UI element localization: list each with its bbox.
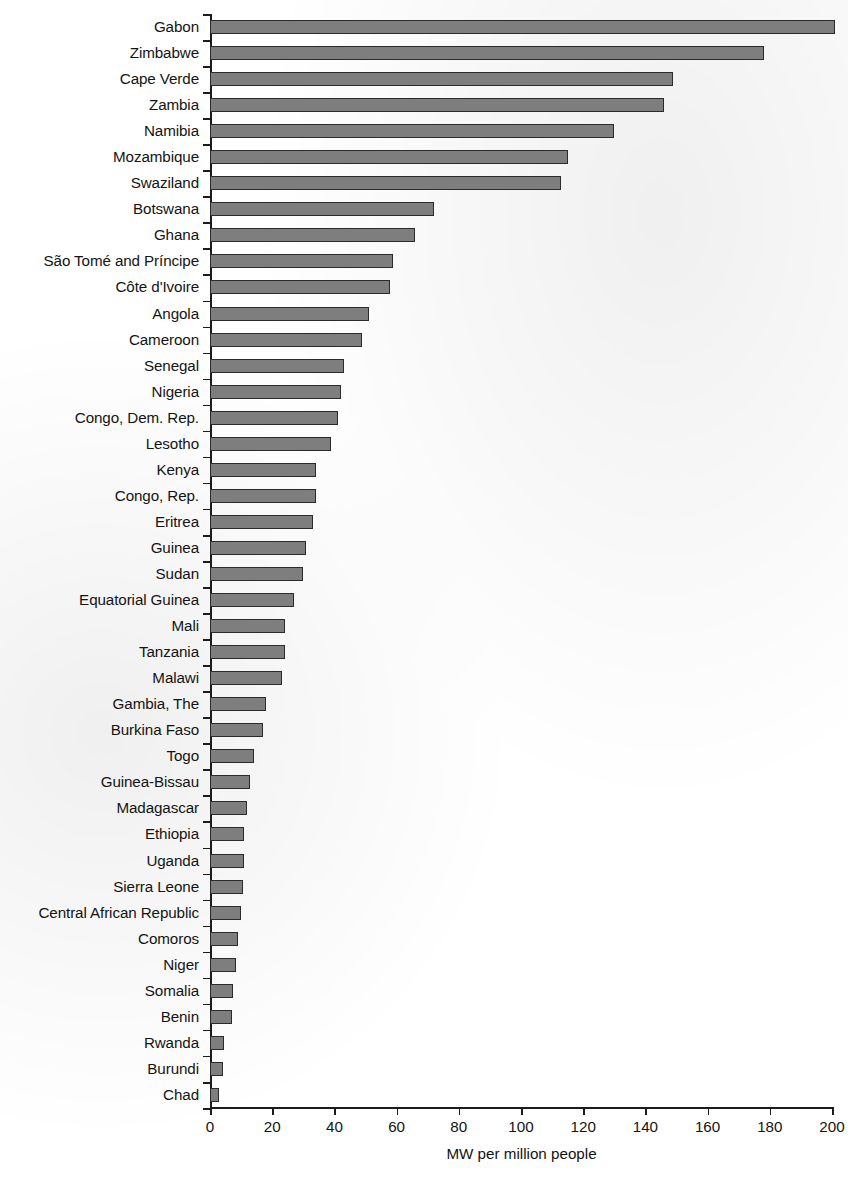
bar-row: Congo, Dem. Rep. [210, 405, 832, 431]
category-label: Mozambique [113, 144, 199, 170]
bar [210, 567, 303, 581]
bar-row: Madagascar [210, 795, 832, 821]
bar-row: Togo [210, 743, 832, 769]
bar [210, 385, 341, 399]
y-axis-tick [203, 457, 210, 459]
category-label: Togo [166, 743, 199, 769]
category-label: Somalia [145, 978, 199, 1004]
category-label: Sierra Leone [113, 874, 199, 900]
bar [210, 515, 313, 529]
y-axis-tick [203, 535, 210, 537]
y-axis-tick [203, 795, 210, 797]
bar-row: Zambia [210, 92, 832, 118]
bar [210, 1062, 223, 1076]
category-label: Nigeria [152, 379, 199, 405]
category-label: Zambia [149, 92, 199, 118]
y-axis-tick [203, 717, 210, 719]
bar-row: Tanzania [210, 639, 832, 665]
x-axis-tick-label: 40 [326, 1118, 343, 1135]
category-label: Guinea [151, 535, 199, 561]
y-axis-tick [203, 248, 210, 250]
category-label: Eritrea [155, 509, 199, 535]
y-axis-tick [203, 222, 210, 224]
bar [210, 124, 614, 138]
category-label: Ghana [154, 222, 199, 248]
bar-row: Eritrea [210, 509, 832, 535]
bar [210, 202, 434, 216]
x-axis-tick-label: 160 [695, 1118, 720, 1135]
category-label: Botswana [133, 196, 199, 222]
y-axis-tick [203, 691, 210, 693]
x-axis-tick-label: 60 [388, 1118, 405, 1135]
x-axis-title: MW per million people [210, 1145, 833, 1162]
bar [210, 723, 263, 737]
bar [210, 280, 390, 294]
category-label: Gabon [154, 14, 199, 40]
bar-row: Central African Republic [210, 900, 832, 926]
y-axis-tick [203, 483, 210, 485]
y-axis-tick [203, 561, 210, 563]
bar [210, 880, 243, 894]
bar-row: Burkina Faso [210, 717, 832, 743]
category-label: Côte d'Ivoire [116, 274, 200, 300]
x-axis-tick [397, 1107, 399, 1115]
bar-row: Botswana [210, 196, 832, 222]
bar-chart-figure: GabonZimbabweCape VerdeZambiaNamibiaMoza… [0, 0, 848, 1183]
bar-row: Equatorial Guinea [210, 587, 832, 613]
y-axis-tick [203, 14, 210, 16]
category-label: Cameroon [129, 327, 199, 353]
bar [210, 906, 241, 920]
x-axis-tick [645, 1107, 647, 1115]
bar [210, 46, 764, 60]
bar-row: Namibia [210, 118, 832, 144]
bar [210, 671, 282, 685]
category-label: Uganda [146, 848, 199, 874]
y-axis-tick [203, 587, 210, 589]
bar [210, 228, 415, 242]
category-label: Mali [172, 613, 199, 639]
x-axis-tick-label: 100 [508, 1118, 533, 1135]
bar [210, 463, 316, 477]
bar-row: Burundi [210, 1056, 832, 1082]
y-axis-tick [203, 353, 210, 355]
y-axis-tick [203, 639, 210, 641]
bar-row: Rwanda [210, 1030, 832, 1056]
y-axis-tick [203, 170, 210, 172]
x-axis-tick [459, 1107, 461, 1115]
bar [210, 437, 331, 451]
bar-row: Malawi [210, 665, 832, 691]
category-label: Namibia [144, 118, 199, 144]
bar-row: Somalia [210, 978, 832, 1004]
bar-row: Sierra Leone [210, 874, 832, 900]
bar-row: Gabon [210, 14, 832, 40]
y-axis-tick [203, 1108, 210, 1110]
y-axis-tick [203, 665, 210, 667]
y-axis-tick [203, 509, 210, 511]
category-label: Equatorial Guinea [79, 587, 199, 613]
bar-rows: GabonZimbabweCape VerdeZambiaNamibiaMoza… [210, 14, 832, 1108]
bar-row: Cape Verde [210, 66, 832, 92]
y-axis-tick [203, 926, 210, 928]
bar [210, 1036, 224, 1050]
y-axis-tick [203, 848, 210, 850]
x-axis-tick [272, 1107, 274, 1115]
bar-row: Swaziland [210, 170, 832, 196]
bar-row: Chad [210, 1082, 832, 1108]
category-label: Burkina Faso [111, 717, 199, 743]
category-label: Angola [152, 301, 199, 327]
bar-row: Ethiopia [210, 821, 832, 847]
y-axis-tick [203, 92, 210, 94]
bar [210, 20, 835, 34]
y-axis-tick [203, 327, 210, 329]
bar [210, 489, 316, 503]
category-label: Congo, Dem. Rep. [75, 405, 199, 431]
bar-row: Mali [210, 613, 832, 639]
bar [210, 619, 285, 633]
y-axis-tick [203, 118, 210, 120]
y-axis-tick [203, 40, 210, 42]
bar-row: Kenya [210, 457, 832, 483]
bar-row: Ghana [210, 222, 832, 248]
category-label: Swaziland [131, 170, 199, 196]
y-axis-tick [203, 196, 210, 198]
y-axis-tick [203, 1056, 210, 1058]
